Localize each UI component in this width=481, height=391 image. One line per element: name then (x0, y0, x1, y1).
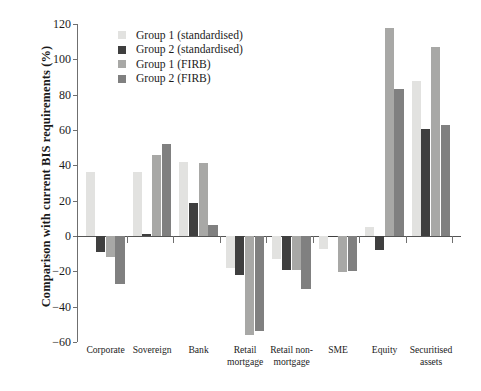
bar (189, 203, 198, 236)
legend-swatch-icon (118, 31, 126, 39)
bar (385, 28, 394, 236)
y-tick-mark (73, 271, 77, 272)
y-tick-label: −20 (52, 264, 71, 279)
bar (162, 144, 171, 236)
x-tick-mark (220, 236, 221, 243)
y-tick-mark (73, 236, 77, 237)
bar (86, 172, 95, 236)
legend-swatch-icon (118, 60, 126, 68)
y-tick-mark (73, 165, 77, 166)
y-tick-mark (73, 201, 77, 202)
bar (421, 129, 430, 236)
bar (441, 125, 450, 236)
y-tick-label: −40 (52, 299, 71, 314)
bar (199, 163, 208, 236)
bar-group (365, 24, 404, 342)
bar (319, 236, 328, 249)
bar (375, 236, 384, 250)
legend-item: Group 1 (standardised) (118, 28, 243, 43)
bar (245, 236, 254, 335)
y-tick-label: −60 (52, 335, 71, 350)
y-tick-mark (73, 95, 77, 96)
legend-item: Group 1 (FIRB) (118, 57, 243, 72)
x-tick-mark (173, 236, 174, 243)
bar (235, 236, 244, 275)
x-axis-category-label: Securitised assets (395, 344, 467, 367)
y-axis-line (77, 24, 78, 342)
y-tick-label: 80 (59, 87, 71, 102)
x-tick-mark (359, 236, 360, 243)
y-tick-label: 40 (59, 158, 71, 173)
legend-item: Group 2 (FIRB) (118, 72, 243, 87)
legend-swatch-icon (118, 75, 126, 83)
legend-item: Group 2 (standardised) (118, 43, 243, 58)
y-axis-title: Comparison with current BIS requirements… (39, 27, 54, 327)
bar (394, 89, 403, 236)
bar (365, 227, 374, 236)
y-tick-mark (73, 24, 77, 25)
chart-legend: Group 1 (standardised)Group 2 (standardi… (118, 28, 243, 86)
y-tick-mark (73, 59, 77, 60)
bar (348, 236, 357, 271)
bar (106, 236, 115, 257)
bar (179, 162, 188, 236)
legend-label: Group 1 (FIRB) (136, 58, 211, 71)
bar (282, 236, 291, 270)
y-tick-mark (73, 130, 77, 131)
bar-chart: Comparison with current BIS requirements… (0, 0, 481, 391)
bar (208, 225, 217, 236)
bar (292, 236, 301, 270)
bar (301, 236, 310, 289)
bar (338, 236, 347, 272)
bar-group (412, 24, 451, 342)
legend-label: Group 2 (FIRB) (136, 72, 211, 85)
bar (328, 236, 337, 237)
bar (142, 234, 151, 236)
legend-swatch-icon (118, 46, 126, 54)
bar (152, 155, 161, 236)
bar (255, 236, 264, 331)
y-tick-mark (73, 307, 77, 308)
x-tick-mark (452, 236, 453, 243)
bar (272, 236, 281, 259)
y-tick-label: 20 (59, 193, 71, 208)
x-tick-mark (266, 236, 267, 243)
bar (133, 172, 142, 236)
x-tick-mark (313, 236, 314, 243)
bar-group (319, 24, 358, 342)
y-tick-label: 120 (53, 17, 71, 32)
bar (226, 236, 235, 268)
y-tick-label: 0 (65, 229, 71, 244)
y-tick-label: 100 (53, 52, 71, 67)
bar (412, 81, 421, 236)
legend-label: Group 2 (standardised) (136, 43, 243, 56)
x-tick-mark (406, 236, 407, 243)
bar (431, 47, 440, 236)
legend-label: Group 1 (standardised) (136, 29, 243, 42)
bar-group (272, 24, 311, 342)
x-tick-mark (127, 236, 128, 243)
bar (115, 236, 124, 284)
y-tick-label: 60 (59, 123, 71, 138)
bar (96, 236, 105, 252)
y-tick-mark (73, 342, 77, 343)
